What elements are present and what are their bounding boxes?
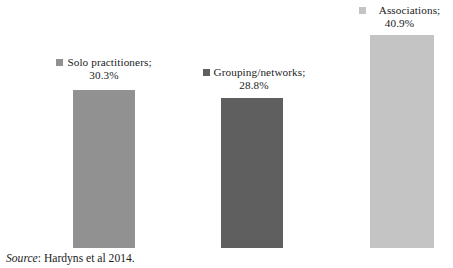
source-note: Source: Hardyns et al 2014. bbox=[6, 252, 135, 266]
data-label-grouping-networks: Grouping/networks; 28.8% bbox=[186, 66, 322, 91]
data-label-category-grouping-networks: Grouping/networks; bbox=[214, 66, 306, 78]
data-label-value-associations: 40.9% bbox=[346, 17, 453, 30]
data-label-line-1: Solo practitioners; bbox=[40, 56, 168, 69]
data-label-value-solo-practitioners: 30.3% bbox=[40, 69, 168, 82]
plot-area: Solo practitioners; 30.3% Grouping/netwo… bbox=[0, 0, 453, 268]
source-note-prefix: Source bbox=[6, 252, 38, 265]
bar-grouping-networks[interactable] bbox=[221, 98, 283, 248]
data-label-associations: Associations; 40.9% bbox=[346, 4, 453, 29]
data-label-value-grouping-networks: 28.8% bbox=[186, 79, 322, 92]
data-label-category-solo-practitioners: Solo practitioners; bbox=[67, 56, 151, 68]
bar-chart-figure: Solo practitioners; 30.3% Grouping/netwo… bbox=[0, 0, 453, 268]
data-label-line-1: Associations; bbox=[346, 4, 453, 17]
legend-swatch-icon-solo-practitioners bbox=[56, 59, 63, 66]
legend-swatch-icon-associations bbox=[359, 7, 366, 14]
data-label-solo-practitioners: Solo practitioners; 30.3% bbox=[40, 56, 168, 81]
legend-swatch-icon-grouping-networks bbox=[203, 69, 210, 76]
bar-associations[interactable] bbox=[370, 35, 434, 248]
source-note-text: Hardyns et al 2014. bbox=[44, 252, 135, 265]
data-label-line-1: Grouping/networks; bbox=[186, 66, 322, 79]
bar-solo-practitioners[interactable] bbox=[73, 90, 135, 248]
data-label-category-associations: Associations; bbox=[379, 4, 441, 16]
